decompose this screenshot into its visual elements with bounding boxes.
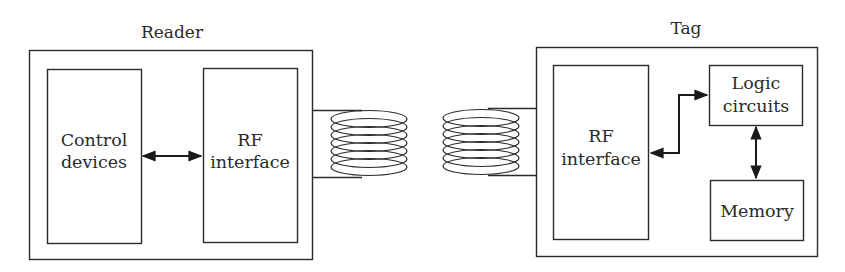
tag-rf-interface-block: RF interface (554, 66, 649, 240)
logic-circuits-block: Logic circuits (710, 66, 803, 126)
control-devices-label-line1: Control (61, 130, 128, 150)
memory-label: Memory (720, 201, 794, 221)
logic-circuits-label-line1: Logic (732, 73, 781, 93)
tag-title: Tag (670, 18, 701, 38)
rfid-diagram: Reader Control devices RF interface (0, 0, 845, 272)
reader-group: Reader Control devices RF interface (30, 22, 313, 260)
tag-rf-label-line1: RF (588, 126, 613, 146)
reader-rf-interface-block: RF interface (204, 69, 298, 243)
tag-antenna-coil-icon (443, 110, 519, 175)
reader-antenna-coil-icon (331, 111, 407, 176)
control-devices-label-line2: devices (61, 152, 127, 172)
logic-circuits-label-line2: circuits (723, 96, 789, 116)
reader-title: Reader (141, 22, 204, 42)
control-devices-block: Control devices (48, 70, 142, 244)
tag-rf-label-line2: interface (561, 149, 641, 169)
reader-rf-label-line2: interface (210, 152, 290, 172)
memory-block: Memory (711, 181, 804, 241)
reader-rf-label-line1: RF (237, 130, 262, 150)
tag-group: Tag RF interface Logic circuits Memory (537, 18, 818, 257)
